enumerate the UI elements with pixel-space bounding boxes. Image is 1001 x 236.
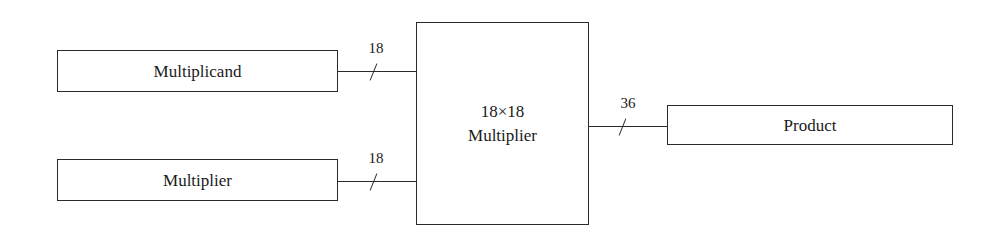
multiplier-input-label: Multiplier (163, 172, 232, 189)
multiplier-bus-line (338, 181, 416, 182)
multiplicand-label: Multiplicand (154, 63, 242, 80)
multiplier-core-block: 18×18 Multiplier (416, 22, 589, 225)
product-bus-line (589, 126, 667, 127)
multiplier-core-size: 18×18 (468, 100, 537, 124)
multiplier-core-label: 18×18 Multiplier (468, 100, 537, 148)
multiplier-bus-slash-icon (370, 173, 378, 190)
product-label: Product (784, 117, 837, 134)
product-bus-width: 36 (621, 96, 636, 111)
multiplier-input-block: Multiplier (57, 159, 338, 201)
multiplier-core-name: Multiplier (468, 124, 537, 148)
product-bus-slash-icon (619, 118, 627, 135)
multiplicand-block: Multiplicand (57, 50, 338, 92)
multiplicand-bus-line (338, 71, 416, 72)
product-block: Product (667, 105, 953, 145)
multiplicand-bus-slash-icon (370, 63, 378, 80)
multiplier-bus-width: 18 (369, 151, 384, 166)
multiplicand-bus-width: 18 (369, 41, 384, 56)
